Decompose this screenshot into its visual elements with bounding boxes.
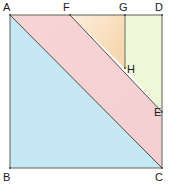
vertex-dot-b — [9, 167, 11, 169]
vertex-label-g: G — [119, 2, 128, 13]
vertex-dot-h — [124, 67, 126, 69]
vertex-dot-a — [9, 14, 11, 16]
vertex-label-c: C — [155, 172, 163, 183]
vertex-dot-d — [161, 14, 163, 16]
vertex-dot-g — [124, 14, 126, 16]
vertex-dot-f — [69, 14, 71, 16]
figure-canvas — [0, 0, 171, 187]
vertex-label-h: H — [127, 64, 135, 75]
vertex-label-b: B — [3, 172, 10, 183]
vertex-label-e: E — [154, 107, 161, 118]
vertex-dot-e — [161, 111, 163, 113]
vertex-label-d: D — [155, 2, 163, 13]
vertex-label-a: A — [3, 2, 10, 13]
vertex-dot-c — [161, 167, 163, 169]
vertex-label-f: F — [63, 2, 70, 13]
geometry-figure: A F G D H E B C — [0, 0, 171, 187]
